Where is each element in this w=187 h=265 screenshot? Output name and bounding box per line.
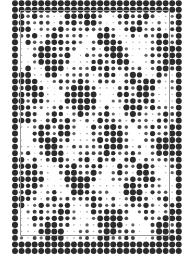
halftone-dot xyxy=(92,190,96,194)
halftone-dot xyxy=(144,54,147,57)
halftone-dot xyxy=(112,99,115,102)
halftone-dot xyxy=(156,33,161,38)
halftone-dot xyxy=(124,158,128,162)
halftone-dot xyxy=(170,27,174,31)
halftone-dot xyxy=(65,13,71,19)
halftone-dot xyxy=(163,59,169,65)
halftone-dot xyxy=(78,171,82,175)
halftone-dot xyxy=(91,170,97,176)
halftone-dot xyxy=(19,72,25,78)
halftone-dot xyxy=(92,145,96,149)
halftone-dot xyxy=(38,176,44,182)
halftone-dot xyxy=(145,68,146,69)
halftone-dot xyxy=(176,7,182,13)
halftone-dot xyxy=(176,150,182,156)
halftone-dot xyxy=(33,125,36,128)
halftone-dot xyxy=(52,53,57,58)
halftone-dot xyxy=(176,189,182,195)
halftone-dot xyxy=(40,106,43,109)
halftone-dot xyxy=(77,189,83,195)
halftone-dot xyxy=(139,237,140,238)
halftone-dot xyxy=(51,235,57,241)
halftone-dot xyxy=(32,216,37,221)
halftone-dot xyxy=(151,47,155,51)
halftone-dot xyxy=(144,28,147,31)
halftone-dot xyxy=(21,126,23,128)
halftone-dot xyxy=(78,111,84,117)
halftone-dot xyxy=(169,248,175,254)
halftone-dot xyxy=(169,209,175,215)
halftone-dot xyxy=(86,35,88,37)
halftone-dot xyxy=(46,112,50,116)
halftone-dot xyxy=(12,111,18,117)
halftone-dot xyxy=(73,237,75,239)
halftone-dot xyxy=(132,172,134,174)
halftone-dot xyxy=(46,216,50,220)
halftone-dot xyxy=(171,171,174,174)
halftone-dot xyxy=(131,34,135,38)
halftone-dot xyxy=(52,157,57,162)
halftone-dot xyxy=(171,100,173,102)
halftone-dot xyxy=(19,157,25,163)
halftone-dot xyxy=(52,203,56,207)
halftone-dot xyxy=(164,210,168,214)
halftone-dot xyxy=(71,98,76,103)
halftone-dot xyxy=(104,0,110,6)
halftone-dot xyxy=(39,171,43,175)
halftone-dot xyxy=(105,118,109,122)
halftone-dot xyxy=(51,0,57,6)
halftone-dot xyxy=(105,60,109,64)
halftone-dot xyxy=(118,151,121,154)
halftone-dot xyxy=(65,223,69,227)
halftone-dot xyxy=(104,111,109,116)
halftone-dot xyxy=(64,52,70,58)
halftone-dot xyxy=(34,68,36,70)
halftone-dot xyxy=(119,113,120,114)
halftone-dot xyxy=(45,7,51,13)
halftone-dot xyxy=(78,92,84,98)
halftone-dot xyxy=(58,27,63,32)
halftone-dot xyxy=(104,235,110,241)
halftone-dot xyxy=(157,53,161,57)
halftone-dot xyxy=(164,125,168,129)
halftone-dot xyxy=(64,0,70,6)
halftone-dot xyxy=(93,185,95,187)
halftone-dot xyxy=(66,86,69,89)
halftone-dot xyxy=(91,92,97,98)
halftone-dot xyxy=(58,248,64,254)
halftone-dot xyxy=(124,13,130,19)
halftone-dot xyxy=(106,87,108,89)
halftone-dot xyxy=(58,66,64,72)
halftone-dot xyxy=(97,137,103,143)
halftone-dot xyxy=(20,152,23,155)
halftone-dot xyxy=(126,42,128,44)
halftone-dot xyxy=(85,67,88,70)
halftone-dot xyxy=(12,222,18,228)
halftone-dot xyxy=(39,216,43,220)
halftone-dot xyxy=(176,196,182,202)
halftone-dot xyxy=(104,124,109,129)
halftone-dot xyxy=(105,79,109,83)
halftone-dot xyxy=(21,218,22,219)
halftone-dot xyxy=(51,65,57,71)
halftone-dot xyxy=(38,229,43,234)
halftone-dot xyxy=(143,248,149,254)
halftone-dot xyxy=(111,80,115,84)
halftone-dot xyxy=(12,79,18,85)
halftone-dot xyxy=(151,27,155,31)
halftone-dot xyxy=(65,124,70,129)
halftone-dot xyxy=(92,86,96,90)
halftone-dot xyxy=(123,7,129,13)
halftone-dot xyxy=(176,105,182,111)
halftone-dot xyxy=(118,21,122,25)
halftone-dot xyxy=(171,15,174,18)
halftone-dot xyxy=(137,20,142,25)
halftone-dot xyxy=(34,231,35,232)
halftone-dot xyxy=(20,34,24,38)
halftone-dot xyxy=(64,131,70,137)
halftone-dot xyxy=(59,79,63,83)
halftone-dot xyxy=(132,55,133,56)
halftone-dot xyxy=(71,242,77,248)
halftone-dot xyxy=(58,235,64,241)
halftone-dot xyxy=(12,66,18,72)
